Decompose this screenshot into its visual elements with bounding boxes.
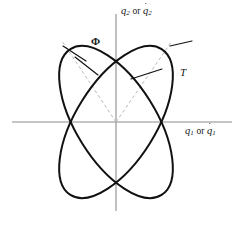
x-axis-label-q-sub: 1 [190,129,194,137]
dashed-principal-axis-t [116,41,172,122]
curve-label-phi: Φ [91,36,100,47]
y-axis-label-qdot: q [143,6,148,17]
tangent-mark-upper-left-inner [75,57,98,75]
x-axis-label-qdot-sub: 1 [212,129,216,137]
diagram-canvas [0,0,239,225]
x-axis-label: q1 or q1 [185,126,216,137]
dashed-principal-axis-phi [62,41,116,122]
y-axis-label-q-sub: 2 [126,9,130,17]
tangent-mark-upper-right-outer [170,41,192,46]
x-axis-label-conjunction: or [196,126,204,136]
curve-label-t: T [180,67,186,78]
y-axis-label-qdot-sub: 2 [148,9,152,17]
overdot-icon [209,123,211,125]
y-axis-label: q2 or q2 [121,6,152,17]
x-axis-label-qdot-letter: q [207,125,212,136]
overdot-icon [145,3,147,5]
y-axis-label-qdot-letter: q [143,5,148,16]
x-axis-label-qdot: q [207,126,212,137]
figure-container: q2 or q2 q1 or q1 Φ T [0,0,239,225]
y-axis-label-conjunction: or [132,6,140,16]
